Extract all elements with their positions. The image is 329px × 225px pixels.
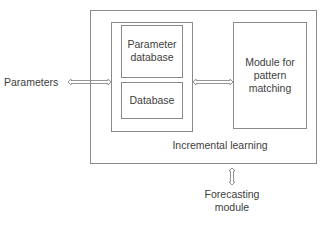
double-arrow-parameters-icon [68,79,111,85]
arrows-layer [0,0,329,225]
double-arrow-forecasting-icon [229,168,235,185]
double-arrow-module-icon [193,79,233,85]
